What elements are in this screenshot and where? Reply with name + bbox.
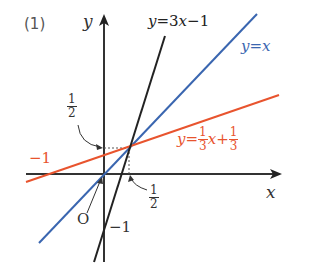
- label-half-y: 12: [67, 93, 77, 120]
- origin-label: O: [77, 212, 89, 227]
- problem-label: (1): [24, 17, 45, 32]
- label-rest: −1: [187, 12, 209, 30]
- fraction-one-half: 12: [149, 184, 159, 211]
- frac-den: 2: [68, 107, 76, 120]
- frac-num: 1: [198, 126, 208, 140]
- frac-den: 3: [199, 140, 207, 153]
- y-axis-label: y: [83, 13, 93, 30]
- frac-num: 1: [149, 184, 159, 198]
- label-black-y-intercept: −1: [109, 220, 131, 235]
- frac-den: 2: [150, 198, 158, 211]
- label-y-x: y=x: [241, 39, 271, 54]
- frac-den: 3: [230, 140, 238, 153]
- label-y-3x-1: y=3x−1: [148, 14, 209, 29]
- label-half-x: 12: [149, 184, 159, 211]
- label-eq: =3: [156, 12, 178, 30]
- frac-num: 1: [67, 93, 77, 107]
- fraction-one-third: 13: [198, 126, 208, 153]
- x-axis-label: x: [266, 184, 276, 201]
- label-y-third-x-third: y= 13 x+ 13: [177, 126, 238, 153]
- label-mid: x+: [208, 132, 229, 147]
- arrowhead-icon: [96, 144, 103, 150]
- frac-num: 1: [229, 126, 239, 140]
- line-y-equals-third-x-plus-third: [26, 95, 279, 182]
- label-red-x-intercept: −1: [29, 151, 51, 166]
- fraction-one-third: 13: [229, 126, 239, 153]
- label-x: x: [179, 12, 187, 30]
- leader-half-y: [78, 125, 100, 147]
- fraction-one-half: 12: [67, 93, 77, 120]
- label-pre: y=: [177, 132, 198, 147]
